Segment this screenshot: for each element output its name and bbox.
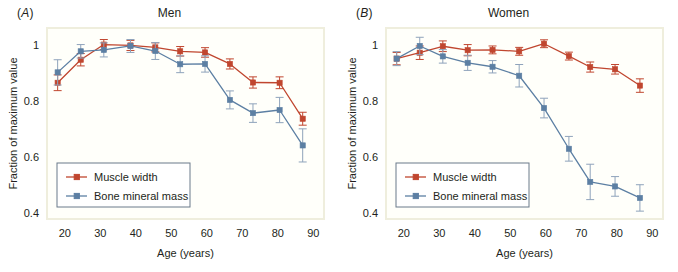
data-point-marker xyxy=(440,54,445,59)
x-tick-label: 50 xyxy=(165,227,177,239)
y-tick-label: 0.4 xyxy=(363,207,378,219)
data-point-marker xyxy=(440,44,445,49)
data-point-marker xyxy=(566,53,571,58)
x-tick-label: 30 xyxy=(433,227,445,239)
x-tick-label: 60 xyxy=(201,227,213,239)
data-point-marker xyxy=(202,50,207,55)
data-point-marker xyxy=(588,179,593,184)
x-axis-label: Age (years) xyxy=(157,247,214,259)
data-point-marker xyxy=(202,61,207,66)
legend-marker-swatch xyxy=(413,193,418,198)
data-point-marker xyxy=(55,70,60,75)
data-point-marker xyxy=(612,67,617,72)
legend-marker-swatch xyxy=(74,193,79,198)
x-tick-label: 80 xyxy=(272,227,284,239)
data-point-marker xyxy=(566,146,571,151)
data-point-marker xyxy=(250,80,255,85)
y-tick-label: 0.8 xyxy=(24,95,39,107)
data-point-marker xyxy=(541,41,546,46)
x-tick-label: 80 xyxy=(611,227,623,239)
legend-marker-swatch xyxy=(413,174,418,179)
legend-item-label: Muscle width xyxy=(433,171,497,183)
y-tick-label: 0.6 xyxy=(24,151,39,163)
data-point-marker xyxy=(250,111,255,116)
x-tick-label: 30 xyxy=(94,227,106,239)
data-point-marker xyxy=(637,83,642,88)
data-point-marker xyxy=(277,80,282,85)
data-point-marker xyxy=(394,56,399,61)
panel-a: (A)Men0.40.60.812030405060708090Age (yea… xyxy=(0,0,339,272)
legend: Muscle widthBone mineral mass xyxy=(57,163,190,207)
legend-item-label: Bone mineral mass xyxy=(433,190,528,202)
data-point-marker xyxy=(300,143,305,148)
data-point-marker xyxy=(277,107,282,112)
y-tick-label: 1 xyxy=(372,39,378,51)
data-point-marker xyxy=(465,48,470,53)
data-point-marker xyxy=(517,73,522,78)
data-point-marker xyxy=(612,184,617,189)
plot-area-b: 0.40.60.812030405060708090Age (years)Fra… xyxy=(339,0,678,272)
x-tick-label: 40 xyxy=(469,227,481,239)
x-tick-label: 50 xyxy=(504,227,516,239)
y-tick-label: 0.8 xyxy=(363,95,378,107)
legend-item-label: Muscle width xyxy=(94,171,158,183)
data-point-marker xyxy=(178,49,183,54)
y-axis-label: Fraction of maximum value xyxy=(7,57,19,189)
plot-area-a: 0.40.60.812030405060708090Age (years)Fra… xyxy=(0,0,339,272)
legend-item-label: Bone mineral mass xyxy=(94,190,189,202)
data-point-marker xyxy=(128,43,133,48)
data-point-marker xyxy=(637,195,642,200)
y-tick-label: 1 xyxy=(33,39,39,51)
y-tick-label: 0.6 xyxy=(363,151,378,163)
data-point-marker xyxy=(490,47,495,52)
x-tick-label: 20 xyxy=(59,227,71,239)
data-point-marker xyxy=(300,116,305,121)
data-point-marker xyxy=(541,105,546,110)
x-tick-label: 40 xyxy=(130,227,142,239)
x-tick-label: 70 xyxy=(236,227,248,239)
data-point-marker xyxy=(417,43,422,48)
data-point-marker xyxy=(101,47,106,52)
x-tick-label: 90 xyxy=(646,227,658,239)
legend: Muscle widthBone mineral mass xyxy=(396,163,529,207)
data-point-marker xyxy=(517,49,522,54)
figure-container: (A)Men0.40.60.812030405060708090Age (yea… xyxy=(0,0,678,272)
data-point-marker xyxy=(178,62,183,67)
y-tick-label: 0.4 xyxy=(24,207,39,219)
data-point-marker xyxy=(465,60,470,65)
panel-b: (B)Women0.40.60.812030405060708090Age (y… xyxy=(339,0,678,272)
x-tick-label: 70 xyxy=(575,227,587,239)
y-axis-label: Fraction of maximum value xyxy=(346,57,358,189)
data-point-marker xyxy=(490,64,495,69)
data-point-marker xyxy=(78,49,83,54)
x-tick-label: 90 xyxy=(307,227,319,239)
x-tick-label: 60 xyxy=(540,227,552,239)
x-tick-label: 20 xyxy=(398,227,410,239)
data-point-marker xyxy=(588,64,593,69)
x-axis-label: Age (years) xyxy=(496,247,553,259)
data-point-marker xyxy=(227,97,232,102)
legend-marker-swatch xyxy=(74,174,79,179)
data-point-marker xyxy=(227,61,232,66)
data-point-marker xyxy=(153,48,158,53)
